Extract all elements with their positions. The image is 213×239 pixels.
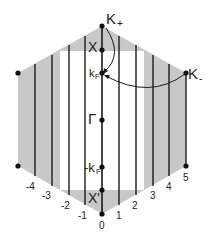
point-bottom [99,211,104,216]
point-x [99,47,104,52]
index-label: 5 [183,172,189,183]
label-neg-kf: -k [84,160,95,175]
point-right-bottom [183,163,188,168]
index-label: -1 [78,210,87,221]
index-label: -4 [26,181,35,192]
label-neg-kf-sub: F [96,167,101,176]
index-label: -3 [42,190,51,201]
label-k-minus: K [188,65,198,82]
arrowhead-icon [104,75,110,79]
label-k-plus: K [106,10,116,27]
label-x: X [88,39,98,55]
point-left-top [15,70,20,75]
index-label: 3 [150,190,156,201]
label-kf-sub: F [95,73,99,80]
index-label: -2 [61,200,70,211]
index-label: 2 [132,200,138,211]
point-x-prime [99,187,104,192]
point-kf [99,70,104,75]
label-x-prime: X' [88,190,100,206]
index-label: 1 [116,210,122,221]
brillouin-zone-diagram: K + K - X k F Γ -k F X' -4 -3 -2 -1 0 1 … [0,0,213,239]
point-gamma [99,117,104,122]
label-gamma: Γ [88,110,96,127]
label-k-minus-sub: - [199,73,202,84]
point-k-plus [99,23,104,28]
index-label: 4 [166,181,172,192]
left-shade [18,20,60,220]
point-left-bottom [15,163,20,168]
index-label: 0 [99,220,105,231]
label-k-plus-sub: + [117,18,123,29]
